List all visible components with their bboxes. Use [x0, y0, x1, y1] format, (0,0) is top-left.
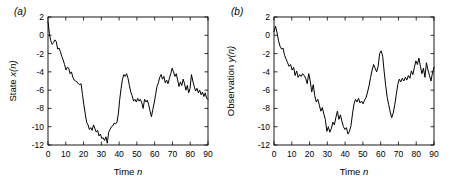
y-tick-label: 2: [39, 12, 44, 22]
data-series-line: [274, 26, 434, 134]
panel-a-plot: 010203040506070809020-2-4-6-8-10-12Time …: [0, 0, 225, 189]
y-tick-label: -12: [32, 140, 45, 150]
x-tick-label: 40: [340, 149, 350, 159]
y-tick-label: -8: [36, 103, 44, 113]
x-tick-label: 30: [97, 149, 107, 159]
x-tick-label: 40: [114, 149, 124, 159]
x-tick-label: 70: [168, 149, 178, 159]
figure-container: (a) 010203040506070809020-2-4-6-8-10-12T…: [0, 0, 451, 189]
y-tick-label: -10: [32, 122, 45, 132]
y-tick-label: -6: [262, 85, 270, 95]
y-tick-label: -10: [258, 122, 271, 132]
x-tick-label: 70: [394, 149, 404, 159]
x-tick-label: 20: [305, 149, 315, 159]
y-axis-title: State x(n): [7, 60, 18, 101]
x-tick-label: 60: [150, 149, 160, 159]
x-tick-label: 30: [323, 149, 333, 159]
x-tick-label: 10: [287, 149, 297, 159]
y-tick-label: -4: [36, 67, 44, 77]
x-tick-label: 0: [272, 149, 277, 159]
x-axis-title: Time n: [340, 166, 369, 177]
x-tick-label: 80: [185, 149, 195, 159]
y-tick-label: -2: [262, 49, 270, 59]
x-tick-label: 90: [203, 149, 213, 159]
panel-a: (a) 010203040506070809020-2-4-6-8-10-12T…: [0, 0, 225, 189]
x-tick-label: 0: [46, 149, 51, 159]
x-tick-label: 50: [358, 149, 368, 159]
x-tick-label: 60: [376, 149, 386, 159]
y-tick-label: -6: [36, 85, 44, 95]
y-tick-label: -8: [262, 103, 270, 113]
panel-b: (b) 010203040506070809020-2-4-6-8-10-12T…: [226, 0, 451, 189]
panel-b-plot: 010203040506070809020-2-4-6-8-10-12Time …: [226, 0, 451, 189]
y-axis-title: Observation y(n): [226, 46, 236, 116]
x-tick-label: 90: [429, 149, 439, 159]
x-tick-label: 20: [79, 149, 89, 159]
x-tick-label: 80: [411, 149, 421, 159]
x-tick-label: 10: [61, 149, 71, 159]
y-tick-label: -12: [258, 140, 271, 150]
x-axis-title: Time n: [114, 166, 143, 177]
y-tick-label: 2: [265, 12, 270, 22]
data-series-line: [48, 22, 208, 144]
x-tick-label: 50: [132, 149, 142, 159]
y-tick-label: -2: [36, 49, 44, 59]
y-tick-label: 0: [39, 30, 44, 40]
y-tick-label: 0: [265, 30, 270, 40]
y-tick-label: -4: [262, 67, 270, 77]
